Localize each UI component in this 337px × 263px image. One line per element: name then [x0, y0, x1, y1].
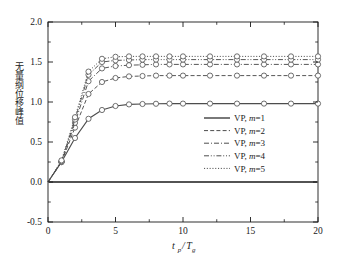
legend-item: VP, m=5 — [204, 164, 266, 174]
series-vp-m-1 — [48, 101, 321, 182]
series-marker — [315, 54, 320, 59]
y-tick-label: 2.0 — [30, 17, 42, 27]
series-marker — [234, 101, 239, 106]
series-marker — [153, 101, 158, 106]
series-marker — [86, 91, 91, 96]
legend-label: VP, m=2 — [234, 126, 265, 136]
x-tick-label: 5 — [113, 226, 118, 236]
series-marker — [261, 101, 266, 106]
x-tick-label: 10 — [178, 226, 188, 236]
series-marker — [207, 54, 212, 59]
series-marker — [126, 74, 131, 79]
series-marker — [140, 101, 145, 106]
chart-legend: VP, m=1VP, m=2VP, m=3VP, m=4VP, m=5 — [204, 113, 266, 173]
series-marker — [288, 54, 293, 59]
series-line — [48, 104, 318, 182]
series-marker — [234, 73, 239, 78]
figure-chart: 无量纲位移峰值 05101520 -0.50.00.51.01.52.0 tp/… — [0, 0, 337, 263]
series-marker — [126, 54, 131, 59]
y-tick-label: 1.5 — [30, 57, 42, 67]
legend-item: VP, m=2 — [204, 126, 265, 136]
legend-label: VP, m=1 — [234, 113, 265, 123]
series-marker — [167, 101, 172, 106]
x-tick-label: 20 — [313, 226, 323, 236]
series-marker — [261, 54, 266, 59]
series-marker — [59, 158, 64, 163]
series-marker — [86, 79, 91, 84]
legend-item: VP, m=3 — [204, 138, 266, 148]
series-marker — [180, 101, 185, 106]
axes-frame — [48, 22, 318, 222]
legend-label: VP, m=4 — [234, 151, 266, 161]
series-marker — [288, 73, 293, 78]
series-marker — [167, 73, 172, 78]
y-tick-label: -0.5 — [27, 217, 42, 227]
series-vp-m-2 — [48, 73, 321, 182]
series-marker — [99, 79, 104, 84]
series-marker — [153, 54, 158, 59]
data-series-group — [48, 54, 321, 182]
series-marker — [113, 54, 118, 59]
chart-canvas: 05101520 -0.50.00.51.01.52.0 tp/Tg VP, m… — [0, 0, 337, 263]
series-marker — [153, 73, 158, 78]
legend-label: VP, m=5 — [234, 164, 266, 174]
series-marker — [126, 102, 131, 107]
series-marker — [113, 63, 118, 68]
series-marker — [140, 73, 145, 78]
series-marker — [113, 75, 118, 80]
series-marker — [99, 107, 104, 112]
series-marker — [261, 73, 266, 78]
x-axis-label-part: t — [172, 240, 175, 251]
series-vp-m-3 — [48, 62, 321, 182]
series-marker — [86, 116, 91, 121]
series-marker — [72, 115, 77, 120]
series-marker — [167, 54, 172, 59]
series-marker — [180, 54, 185, 59]
x-tick-label: 15 — [246, 226, 256, 236]
legend-item: VP, m=1 — [204, 113, 265, 123]
series-marker — [207, 73, 212, 78]
series-marker — [140, 54, 145, 59]
series-marker — [99, 66, 104, 71]
series-marker — [113, 103, 118, 108]
series-marker — [234, 54, 239, 59]
y-tick-label: 0.5 — [30, 137, 42, 147]
series-marker — [86, 69, 91, 74]
legend-item: VP, m=4 — [204, 151, 266, 161]
y-tick-label: 0.0 — [30, 177, 42, 187]
series-marker — [140, 62, 145, 67]
series-marker — [315, 73, 320, 78]
x-tick-label: 0 — [46, 226, 51, 236]
legend-label: VP, m=3 — [234, 138, 266, 148]
y-axis-ticks: -0.50.00.51.01.52.0 — [27, 17, 318, 227]
series-marker — [180, 73, 185, 78]
series-marker — [288, 101, 293, 106]
series-marker — [99, 56, 104, 61]
series-marker — [72, 135, 77, 140]
x-axis-label-subscript: g — [192, 246, 196, 254]
x-axis-label: tp/Tg — [172, 240, 196, 254]
y-tick-label: 1.0 — [30, 97, 42, 107]
series-marker — [207, 101, 212, 106]
series-marker — [126, 63, 131, 68]
